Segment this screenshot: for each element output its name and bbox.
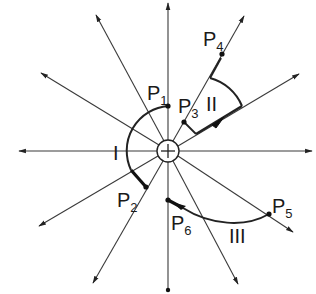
diagram-canvas: P1 P2 P3 P4 P5 P6 I II III — [0, 0, 316, 294]
ray-upper-left-steep — [96, 15, 164, 141]
label-P5: P5 — [272, 195, 293, 221]
ray-lower-left-steep — [93, 161, 163, 283]
label-P6: P6 — [171, 212, 192, 238]
label-region-I: I — [113, 142, 119, 164]
axis-end-dot — [166, 288, 170, 292]
radial-field-diagram: P1 P2 P3 P4 P5 P6 I II III — [0, 0, 316, 294]
ray-lower-right-shallow — [178, 156, 293, 232]
ray-lower-left-shallow — [39, 156, 158, 226]
label-P1: P1 — [147, 82, 168, 108]
point-labels: P1 P2 P3 P4 P5 P6 — [117, 28, 293, 238]
label-P3: P3 — [178, 95, 199, 121]
ray-upper-left-shallow — [41, 73, 159, 145]
point-P3 — [181, 119, 186, 124]
positive-charge-icon — [157, 140, 179, 162]
point-P5 — [266, 211, 271, 216]
points — [143, 51, 271, 292]
label-region-II: II — [206, 93, 217, 115]
point-P2 — [143, 184, 148, 189]
label-P4: P4 — [203, 28, 224, 54]
point-P6 — [165, 197, 170, 202]
label-region-III: III — [229, 225, 246, 247]
label-P2: P2 — [117, 189, 138, 215]
